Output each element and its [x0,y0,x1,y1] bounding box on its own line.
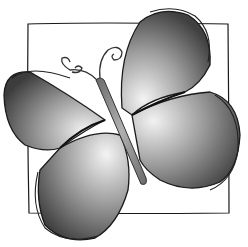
antennae [62,47,122,80]
butterfly-illustration [0,0,248,247]
butterfly-artwork [0,0,248,247]
